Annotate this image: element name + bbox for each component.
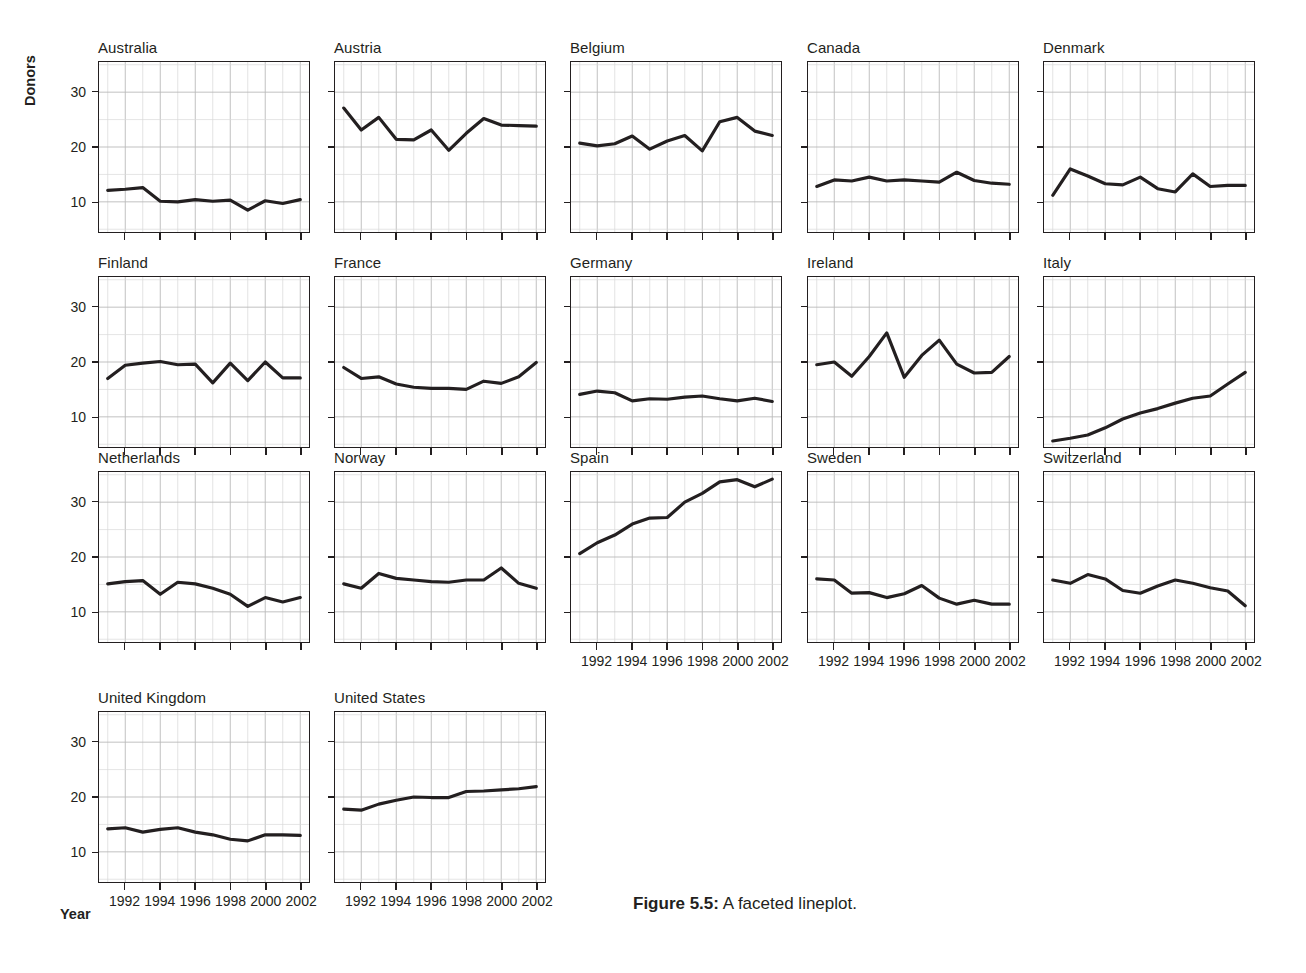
y-tick-mark	[328, 202, 334, 204]
x-tick-mark	[772, 643, 774, 650]
facet-title: Denmark	[1043, 40, 1105, 55]
y-tick-mark	[564, 361, 570, 363]
x-tick-mark	[596, 643, 598, 650]
plot-panel	[334, 61, 546, 233]
x-tick-mark	[300, 643, 302, 650]
x-tick-mark	[466, 233, 468, 240]
plot-panel	[1043, 471, 1255, 643]
x-tick-mark	[430, 883, 432, 890]
facet-title: Netherlands	[98, 450, 180, 465]
facet-title: United Kingdom	[98, 690, 206, 705]
x-tick-mark	[395, 643, 397, 650]
x-tick-mark	[194, 233, 196, 240]
y-tick-mark	[92, 361, 98, 363]
caption-label: Figure 5.5:	[633, 894, 719, 913]
facet-canada: Canada	[807, 40, 1019, 233]
x-tick-mark	[466, 883, 468, 890]
facet-title: Finland	[98, 255, 148, 270]
y-tick-label: 20	[54, 550, 86, 564]
data-line	[1053, 372, 1246, 441]
x-tick-mark	[1139, 643, 1141, 650]
x-tick-label: 2002	[512, 894, 562, 908]
plot-panel	[570, 61, 782, 233]
x-tick-mark	[1104, 643, 1106, 650]
x-tick-mark	[300, 233, 302, 240]
y-tick-mark	[801, 361, 807, 363]
data-line	[817, 579, 1010, 604]
y-tick-mark	[801, 556, 807, 558]
x-tick-mark	[903, 233, 905, 240]
y-tick-mark	[92, 146, 98, 148]
x-tick-mark	[702, 643, 704, 650]
x-tick-mark	[1069, 643, 1071, 650]
y-tick-mark	[92, 796, 98, 798]
y-tick-mark	[92, 852, 98, 854]
data-line	[108, 361, 301, 382]
plot-panel	[334, 471, 546, 643]
y-tick-mark	[1037, 202, 1043, 204]
y-tick-label: 30	[54, 85, 86, 99]
facet-switzerland: Switzerland	[1043, 450, 1255, 643]
plot-panel	[334, 276, 546, 448]
facet-grid: Australia102030AustriaBelgiumCanadaDenma…	[0, 0, 1306, 930]
y-tick-mark	[92, 501, 98, 503]
y-tick-mark	[92, 741, 98, 743]
y-tick-label: 20	[54, 140, 86, 154]
y-tick-mark	[801, 501, 807, 503]
facet-title: Germany	[570, 255, 632, 270]
facet-title: Spain	[570, 450, 609, 465]
y-tick-mark	[92, 612, 98, 614]
x-tick-mark	[300, 883, 302, 890]
y-tick-mark	[92, 417, 98, 419]
y-tick-mark	[92, 556, 98, 558]
facet-denmark: Denmark	[1043, 40, 1255, 233]
x-tick-mark	[430, 233, 432, 240]
plot-panel	[1043, 276, 1255, 448]
x-tick-mark	[395, 233, 397, 240]
facet-ireland: Ireland	[807, 255, 1019, 448]
facet-title: Ireland	[807, 255, 854, 270]
y-tick-mark	[801, 202, 807, 204]
x-tick-mark	[230, 643, 232, 650]
y-tick-mark	[328, 146, 334, 148]
x-tick-mark	[666, 233, 668, 240]
x-tick-mark	[159, 643, 161, 650]
y-tick-mark	[564, 501, 570, 503]
data-line	[1053, 575, 1246, 606]
plot-panel	[807, 61, 1019, 233]
x-tick-mark	[159, 883, 161, 890]
plot-panel	[334, 711, 546, 883]
y-tick-label: 20	[54, 355, 86, 369]
facet-france: France	[334, 255, 546, 448]
x-tick-mark	[360, 883, 362, 890]
y-tick-mark	[328, 612, 334, 614]
x-tick-mark	[1210, 233, 1212, 240]
x-tick-mark	[360, 233, 362, 240]
x-tick-mark	[868, 233, 870, 240]
x-tick-mark	[833, 643, 835, 650]
x-tick-mark	[737, 643, 739, 650]
x-tick-label: 2002	[1221, 654, 1271, 668]
x-tick-mark	[230, 233, 232, 240]
facet-title: United States	[334, 690, 425, 705]
plot-panel	[570, 471, 782, 643]
facet-title: Sweden	[807, 450, 862, 465]
y-tick-mark	[92, 91, 98, 93]
data-line	[580, 479, 773, 554]
y-tick-mark	[801, 306, 807, 308]
facet-united-states: United States	[334, 690, 546, 883]
x-tick-mark	[194, 643, 196, 650]
y-tick-mark	[328, 91, 334, 93]
data-line	[344, 363, 537, 390]
y-tick-mark	[1037, 556, 1043, 558]
y-tick-label: 30	[54, 495, 86, 509]
facet-title: Norway	[334, 450, 385, 465]
y-tick-label: 10	[54, 845, 86, 859]
y-tick-mark	[1037, 501, 1043, 503]
y-tick-mark	[328, 361, 334, 363]
x-tick-mark	[1009, 233, 1011, 240]
plot-panel	[807, 276, 1019, 448]
x-tick-mark	[536, 883, 538, 890]
y-tick-mark	[801, 91, 807, 93]
x-tick-mark	[501, 643, 503, 650]
